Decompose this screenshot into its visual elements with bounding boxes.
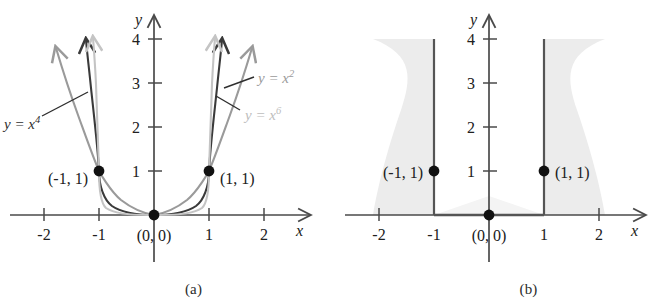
y-tick-label-1: 1 xyxy=(132,163,140,180)
y-tick-label-1: 1 xyxy=(467,163,475,180)
point-origin xyxy=(149,210,160,221)
point-origin xyxy=(484,210,495,221)
caption-a: (a) xyxy=(0,281,361,298)
x-axis-label: x xyxy=(630,222,638,239)
x-tick-label--1: -1 xyxy=(427,226,440,243)
curve-y-equals-x-squared xyxy=(154,48,252,215)
panel-a-plot: x y -2 -1 1 2 1 2 3 4 (-1, 1) (1, 1) (0,… xyxy=(0,0,335,304)
math-figure: x y -2 -1 1 2 1 2 3 4 (-1, 1) (1, 1) (0,… xyxy=(0,0,670,304)
curve-y-equals-x-fourth xyxy=(154,40,222,215)
y-axis xyxy=(483,16,497,262)
label-point-one-one: (1, 1) xyxy=(220,170,255,188)
x-tick-label-2: 2 xyxy=(260,226,268,243)
label-point-minus-one-one: (-1, 1) xyxy=(383,164,423,182)
curve-label-x2: y = x2 xyxy=(256,68,295,86)
label-point-origin: (0, 0) xyxy=(472,227,507,245)
x-tick-label--2: -2 xyxy=(37,226,50,243)
x-tick-label--2: -2 xyxy=(372,226,385,243)
y-tick-label-2: 2 xyxy=(132,119,140,136)
y-tick-label-2: 2 xyxy=(467,119,475,136)
x-tick-label-2: 2 xyxy=(595,226,603,243)
label-point-one-one: (1, 1) xyxy=(555,164,590,182)
x-tick-label-1: 1 xyxy=(540,226,548,243)
y-tick-label-3: 3 xyxy=(132,75,140,92)
curve-label-x6: y = x6 xyxy=(243,105,282,123)
label-point-minus-one-one: (-1, 1) xyxy=(48,170,88,188)
point-one-one xyxy=(539,166,550,177)
y-tick-label-4: 4 xyxy=(132,31,140,48)
point-one-one xyxy=(204,166,215,177)
y-tick-label-3: 3 xyxy=(467,75,475,92)
point-minus-one-one xyxy=(94,166,105,177)
y-axis xyxy=(148,16,162,262)
panel-b: x y -2 -1 1 2 1 2 3 4 (-1, 1) (1, 1) (0,… xyxy=(335,0,670,304)
panel-a: x y -2 -1 1 2 1 2 3 4 (-1, 1) (1, 1) (0,… xyxy=(0,0,335,304)
x-tick-label-1: 1 xyxy=(205,226,213,243)
y-tick-label-4: 4 xyxy=(467,31,475,48)
x-tick-label--1: -1 xyxy=(92,226,105,243)
leader-x4 xyxy=(42,92,88,116)
x-axis-label: x xyxy=(295,222,303,239)
caption-b: (b) xyxy=(335,281,670,298)
shaded-region-right xyxy=(544,39,605,215)
curve-y-equals-x-fourth-left xyxy=(86,40,154,215)
point-minus-one-one xyxy=(429,166,440,177)
shaded-region-left xyxy=(373,39,434,215)
panel-b-plot: x y -2 -1 1 2 1 2 3 4 (-1, 1) (1, 1) (0,… xyxy=(335,0,670,304)
label-point-origin: (0, 0) xyxy=(137,227,172,245)
curve-label-x4: y = x4 xyxy=(2,114,41,132)
y-axis-label: y xyxy=(468,11,478,29)
y-axis-label: y xyxy=(133,11,143,29)
